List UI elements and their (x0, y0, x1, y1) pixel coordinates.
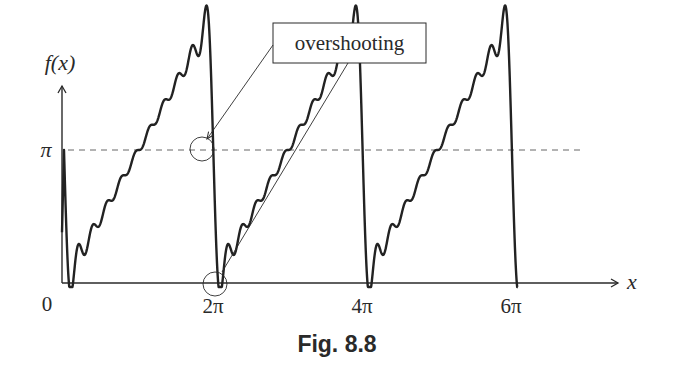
x-tick-4pi: 4π (351, 294, 373, 318)
y-axis-label: f(x) (45, 50, 76, 75)
annotation-label: overshooting (295, 31, 405, 55)
annotation-line-bottom (222, 63, 348, 272)
overshoot-circle-top (190, 137, 214, 161)
origin-label: 0 (42, 292, 53, 316)
fourier-figure: overshooting f(x) π x 0 2π 4π 6π Fig. 8.… (0, 0, 673, 377)
figure-caption: Fig. 8.8 (297, 331, 376, 357)
x-tick-6pi: 6π (500, 294, 522, 318)
x-axis-label: x (626, 269, 637, 294)
annotation-arrow-top (207, 45, 273, 139)
x-tick-2pi: 2π (202, 294, 224, 318)
y-tick-pi: π (40, 137, 52, 162)
